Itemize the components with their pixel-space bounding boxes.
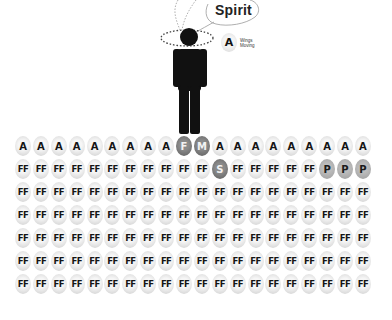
grid-circle: FF xyxy=(301,159,317,179)
grid-circle: FF xyxy=(265,228,281,248)
grid-circle: FF xyxy=(33,205,49,225)
grid-circle: FF xyxy=(33,159,49,179)
grid-circle: FF xyxy=(355,205,371,225)
grid-circle: FF xyxy=(104,205,120,225)
grid-circle: FF xyxy=(122,251,138,271)
grid-circle: FF xyxy=(319,182,335,202)
grid-circle: FF xyxy=(283,159,299,179)
grid-circle: FF xyxy=(104,159,120,179)
grid-circle: FF xyxy=(104,228,120,248)
grid-circle: FF xyxy=(87,251,103,271)
grid-circle: FF xyxy=(15,251,31,271)
grid-circle: FF xyxy=(355,274,371,294)
grid-circle: FF xyxy=(104,182,120,202)
grid-circle: FF xyxy=(33,182,49,202)
grid-circle: FF xyxy=(319,251,335,271)
grid-circle: FF xyxy=(69,205,85,225)
grid-circle: FF xyxy=(337,274,353,294)
grid-circle: FF xyxy=(355,228,371,248)
grid-circle: A xyxy=(212,136,228,156)
grid-circle: FF xyxy=(15,274,31,294)
grid-circle: FF xyxy=(87,182,103,202)
grid-circle: FF xyxy=(301,205,317,225)
grid-circle: A xyxy=(104,136,120,156)
grid-row: FFFFFFFFFFFFFFFFFFFFFFSFFFFFFFFFFPPP xyxy=(15,159,373,182)
grid-circle: FF xyxy=(176,251,192,271)
grid-circle: FF xyxy=(87,159,103,179)
grid-row: FFFFFFFFFFFFFFFFFFFFFFFFFFFFFFFFFFFFFFFF xyxy=(15,228,373,251)
grid-circle: FF xyxy=(33,228,49,248)
grid-circle: FF xyxy=(140,159,156,179)
grid-circle: A xyxy=(248,136,264,156)
grid-circle: A xyxy=(283,136,299,156)
grid-row: FFFFFFFFFFFFFFFFFFFFFFFFFFFFFFFFFFFFFFFF xyxy=(15,205,373,228)
grid-circle: FF xyxy=(51,159,67,179)
circle-grid: AAAAAAAAAFMAAAAAAAAAFFFFFFFFFFFFFFFFFFFF… xyxy=(15,136,373,297)
grid-circle: FF xyxy=(122,228,138,248)
grid-circle: FF xyxy=(212,274,228,294)
grid-circle: FF xyxy=(69,251,85,271)
grid-circle: FF xyxy=(337,251,353,271)
grid-circle: FF xyxy=(212,205,228,225)
grid-circle: FF xyxy=(194,205,210,225)
grid-circle: FF xyxy=(15,228,31,248)
grid-circle: FF xyxy=(69,274,85,294)
grid-circle: FF xyxy=(265,159,281,179)
grid-circle: FF xyxy=(122,274,138,294)
grid-circle: FF xyxy=(51,274,67,294)
grid-circle: FF xyxy=(87,228,103,248)
grid-circle: FF xyxy=(51,251,67,271)
grid-circle: FF xyxy=(212,182,228,202)
grid-circle: FF xyxy=(122,205,138,225)
legend: A Wings Moving xyxy=(221,33,266,52)
grid-circle: A xyxy=(140,136,156,156)
grid-circle: FF xyxy=(319,205,335,225)
grid-circle: FF xyxy=(230,251,246,271)
grid-circle: FF xyxy=(122,159,138,179)
grid-circle: FF xyxy=(319,274,335,294)
grid-circle: FF xyxy=(176,159,192,179)
grid-circle: FF xyxy=(140,182,156,202)
grid-circle: P xyxy=(319,159,335,179)
grid-circle: FF xyxy=(355,251,371,271)
grid-circle: FF xyxy=(248,182,264,202)
legend-badge: A xyxy=(221,33,237,52)
grid-circle: FF xyxy=(87,205,103,225)
grid-circle: FF xyxy=(176,228,192,248)
grid-circle: A xyxy=(122,136,138,156)
grid-circle: FF xyxy=(104,274,120,294)
grid-circle: FF xyxy=(283,228,299,248)
grid-circle: FF xyxy=(176,205,192,225)
person-silhouette-icon xyxy=(173,49,207,134)
grid-circle: FF xyxy=(248,205,264,225)
grid-circle: FF xyxy=(140,251,156,271)
grid-row: AAAAAAAAAFMAAAAAAAAA xyxy=(15,136,373,159)
grid-circle: FF xyxy=(337,228,353,248)
grid-circle: FF xyxy=(301,251,317,271)
grid-circle: FF xyxy=(230,274,246,294)
grid-circle: A xyxy=(51,136,67,156)
grid-circle: FF xyxy=(283,182,299,202)
grid-circle: M xyxy=(194,136,210,156)
grid-circle: FF xyxy=(158,205,174,225)
grid-circle: P xyxy=(337,159,353,179)
grid-circle: FF xyxy=(194,159,210,179)
grid-circle: FF xyxy=(301,274,317,294)
grid-circle: A xyxy=(87,136,103,156)
grid-circle: FF xyxy=(33,251,49,271)
grid-circle: FF xyxy=(194,182,210,202)
grid-circle: FF xyxy=(248,274,264,294)
grid-circle: FF xyxy=(140,274,156,294)
grid-circle: FF xyxy=(194,251,210,271)
grid-circle: FF xyxy=(337,182,353,202)
grid-circle: FF xyxy=(194,228,210,248)
grid-circle: FF xyxy=(15,182,31,202)
grid-circle: P xyxy=(355,159,371,179)
grid-circle: FF xyxy=(33,274,49,294)
grid-circle: A xyxy=(301,136,317,156)
grid-circle: A xyxy=(33,136,49,156)
grid-circle: FF xyxy=(230,228,246,248)
grid-circle: FF xyxy=(176,182,192,202)
grid-circle: FF xyxy=(15,205,31,225)
grid-circle: FF xyxy=(176,274,192,294)
